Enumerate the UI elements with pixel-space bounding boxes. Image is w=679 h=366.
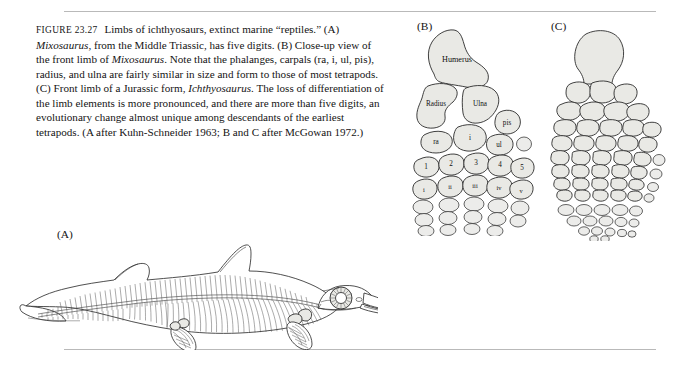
distal-phalanges-b	[413, 197, 529, 236]
digit-i	[413, 179, 437, 199]
proximal-element-3	[614, 84, 637, 104]
label-metacarpal-4: 4	[498, 161, 502, 169]
label-digit-iv: iv	[497, 184, 503, 191]
figure-top-rule	[64, 11, 656, 12]
label-radius: Radius	[426, 100, 446, 108]
figure-caption-text: Limbs of ichthyosaurs, extinct marine “r…	[36, 23, 384, 138]
label-metacarpal-1: 1	[424, 163, 428, 171]
label-digit-i: i	[423, 186, 425, 193]
label-pisiform: pis	[503, 119, 512, 127]
label-metacarpal-3: 3	[474, 159, 478, 167]
sclerotic-ring-inner	[336, 293, 347, 304]
panel-a-ichthyosaur-skeleton	[18, 238, 378, 350]
panel-b-mixosaurus-forelimb: Humerus Radius Ulna pis ra i ul 1 2 3 4 …	[412, 26, 537, 236]
humerus-c	[575, 31, 624, 84]
label-carpal-i: i	[469, 134, 471, 142]
label-humerus: Humerus	[442, 55, 472, 64]
label-metacarpal-2: 2	[449, 160, 453, 168]
panel-c-ichthyosaurus-forelimb	[548, 26, 668, 241]
carpal-mosaic-row2	[557, 102, 649, 121]
label-ulna: Ulna	[473, 100, 488, 108]
pelvic-element	[170, 322, 180, 330]
figure-caption: FIGURE 23.27Limbs of ichthyosaurs, extin…	[36, 22, 386, 139]
label-carpal-ul: ul	[496, 141, 502, 149]
label-carpal-ra: ra	[433, 138, 439, 146]
label-digit-ii: ii	[448, 183, 452, 190]
proximal-element-1	[566, 82, 591, 103]
phalanx-mosaic	[551, 120, 665, 241]
proximal-element-2	[590, 81, 617, 103]
figure-number: FIGURE 23.27	[36, 25, 98, 35]
accessory-ossicle	[517, 137, 532, 151]
label-digit-iii: iii	[472, 182, 478, 189]
label-metacarpal-5: 5	[520, 164, 524, 172]
